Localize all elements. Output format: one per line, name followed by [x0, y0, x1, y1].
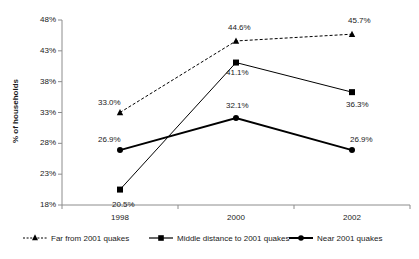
- data-label: 45.7%: [348, 17, 371, 25]
- data-label: 20.5%: [112, 201, 135, 209]
- legend-label: Far from 2001 quakes: [51, 234, 129, 243]
- legend-marker-circle-icon: [288, 232, 314, 244]
- plot-area: [0, 0, 419, 259]
- legend-label: Near 2001 quakes: [317, 234, 382, 243]
- legend-marker-triangle-icon: [22, 232, 48, 244]
- data-label: 26.9%: [350, 136, 373, 144]
- legend-item-middle[interactable]: Middle distance to 2001 quakes: [148, 231, 290, 245]
- data-label: 26.9%: [98, 136, 121, 144]
- legend-item-near[interactable]: Near 2001 quakes: [288, 231, 382, 245]
- legend-item-far[interactable]: Far from 2001 quakes: [22, 231, 129, 245]
- line-chart: % of households 18% 23% 28% 33% 38% 43% …: [0, 0, 419, 259]
- data-label: 41.1%: [226, 69, 249, 77]
- chart-legend: Far from 2001 quakes Middle distance to …: [0, 231, 419, 251]
- legend-marker-square-icon: [148, 232, 174, 244]
- legend-label: Middle distance to 2001 quakes: [177, 234, 290, 243]
- data-label: 33.0%: [98, 99, 121, 107]
- data-label: 32.1%: [226, 102, 249, 110]
- data-label: 44.6%: [228, 24, 251, 32]
- data-label: 36.3%: [346, 101, 369, 109]
